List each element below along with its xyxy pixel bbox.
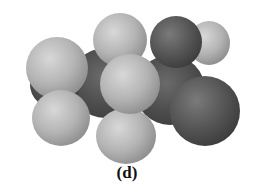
oxygen-atom xyxy=(150,16,202,68)
hydrogen-atom xyxy=(32,90,90,146)
hydrogen-atom xyxy=(96,108,156,164)
hydrogen-atom xyxy=(100,54,160,114)
oxygen-atom xyxy=(170,76,240,146)
figure-caption: (d) xyxy=(0,163,254,183)
